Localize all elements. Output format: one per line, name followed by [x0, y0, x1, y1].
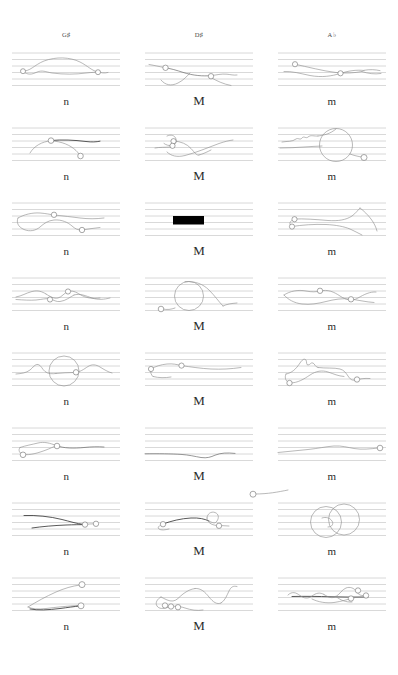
staff-lines — [145, 278, 253, 311]
notation-marks — [289, 208, 377, 235]
staff-r5c1[interactable] — [12, 352, 120, 389]
staff-r8c2[interactable] — [145, 577, 253, 614]
notation-marks — [24, 515, 99, 528]
staff-r1c2[interactable] — [145, 52, 253, 89]
cell-label: m — [265, 469, 398, 483]
staff-cell[interactable]: n — [0, 271, 133, 346]
notation-marks — [156, 586, 237, 610]
staff-row: n — [0, 421, 398, 496]
staff-row: n — [0, 121, 398, 196]
cell-label: M — [133, 244, 266, 258]
staff-r3c1[interactable] — [12, 202, 120, 239]
column-header-row: G♯ D♯ A♭ — [0, 28, 398, 42]
staff-row: n — [0, 346, 398, 421]
cell-label: m — [265, 319, 398, 333]
staff-lines — [145, 128, 253, 161]
staff-cell[interactable]: n — [0, 421, 133, 496]
staff-r1c1[interactable] — [12, 52, 120, 89]
staff-cell[interactable]: n — [0, 571, 133, 646]
cell-label: n — [0, 544, 133, 558]
cell-label: M — [133, 469, 266, 483]
staff-cell[interactable]: M — [133, 421, 266, 496]
staff-cell[interactable]: m — [265, 196, 398, 271]
staff-r3c2[interactable] — [145, 202, 253, 239]
staff-r7c2[interactable] — [145, 502, 253, 539]
staff-cell[interactable]: m — [265, 421, 398, 496]
staff-r6c3[interactable] — [278, 427, 386, 464]
large-circle-right — [328, 504, 359, 535]
staff-lines — [278, 53, 386, 86]
staff-cell[interactable]: M — [133, 271, 266, 346]
notation-marks — [310, 504, 359, 538]
staff-r4c3[interactable] — [278, 277, 386, 314]
staff-row: n — [0, 196, 398, 271]
staff-r2c2[interactable] — [145, 127, 253, 164]
cell-label: n — [0, 94, 133, 108]
notation-marks — [16, 356, 112, 386]
staff-r5c2[interactable] — [145, 352, 253, 389]
staff-cell[interactable]: m — [265, 121, 398, 196]
staff-r8c3[interactable] — [278, 577, 386, 614]
cell-label: n — [0, 619, 133, 633]
staff-r6c2[interactable] — [145, 427, 253, 464]
cell-label: n — [0, 169, 133, 183]
staff-cell[interactable]: M — [133, 571, 266, 646]
notation-marks — [280, 129, 367, 162]
staff-cell[interactable]: m — [265, 271, 398, 346]
staff-cell[interactable]: n — [0, 121, 133, 196]
cell-label: m — [265, 394, 398, 408]
cell-label: m — [265, 94, 398, 108]
staff-r4c1[interactable] — [12, 277, 120, 314]
staff-cell[interactable]: M — [133, 121, 266, 196]
notation-marks — [288, 587, 369, 602]
staff-r2c3[interactable] — [278, 127, 386, 164]
staff-grid: n — [0, 46, 398, 646]
notation-marks — [21, 58, 109, 75]
staff-cell[interactable]: m — [265, 46, 398, 121]
notation-marks — [145, 453, 235, 458]
cell-label: M — [133, 319, 266, 333]
black-bar — [173, 216, 204, 225]
cell-label: n — [0, 244, 133, 258]
cell-label: m — [265, 544, 398, 558]
staff-r7c1[interactable] — [12, 502, 120, 539]
staff-r5c3[interactable] — [278, 352, 386, 389]
notation-marks — [284, 62, 381, 77]
cell-label: n — [0, 469, 133, 483]
staff-cell[interactable]: m — [265, 571, 398, 646]
staff-cell[interactable]: m — [265, 346, 398, 421]
staff-r1c3[interactable] — [278, 52, 386, 89]
staff-r8c1[interactable] — [12, 577, 120, 614]
staff-lines — [145, 353, 253, 386]
staff-cell[interactable]: M — [133, 196, 266, 271]
staff-cell[interactable]: M — [133, 46, 266, 121]
staff-row: n — [0, 496, 398, 571]
cell-label: m — [265, 244, 398, 258]
staff-r3c3[interactable] — [278, 202, 386, 239]
staff-r6c1[interactable] — [12, 427, 120, 464]
notation-marks — [28, 582, 85, 610]
staff-lines — [278, 353, 386, 386]
staff-row: n — [0, 571, 398, 646]
cell-label: m — [265, 169, 398, 183]
notation-marks — [158, 512, 229, 530]
staff-cell[interactable]: n — [0, 46, 133, 121]
staff-cell[interactable]: m — [265, 496, 398, 571]
notation-marks — [158, 281, 237, 311]
staff-r2c1[interactable] — [12, 127, 120, 164]
notation-marks — [278, 445, 383, 452]
cell-label: M — [133, 394, 266, 408]
column-header-g-sharp: G♯ — [0, 28, 133, 42]
staff-r4c2[interactable] — [145, 277, 253, 314]
staff-cell[interactable]: M — [133, 346, 266, 421]
cell-label: m — [265, 619, 398, 633]
staff-cell[interactable]: n — [0, 496, 133, 571]
notation-marks — [284, 288, 376, 304]
staff-cell[interactable]: n — [0, 346, 133, 421]
staff-row: n — [0, 271, 398, 346]
staff-cell[interactable]: n — [0, 196, 133, 271]
cell-label: M — [133, 169, 266, 183]
staff-grid-page: G♯ D♯ A♭ — [0, 0, 398, 675]
staff-r7c3[interactable] — [278, 502, 386, 539]
staff-cell[interactable]: M — [133, 496, 266, 571]
